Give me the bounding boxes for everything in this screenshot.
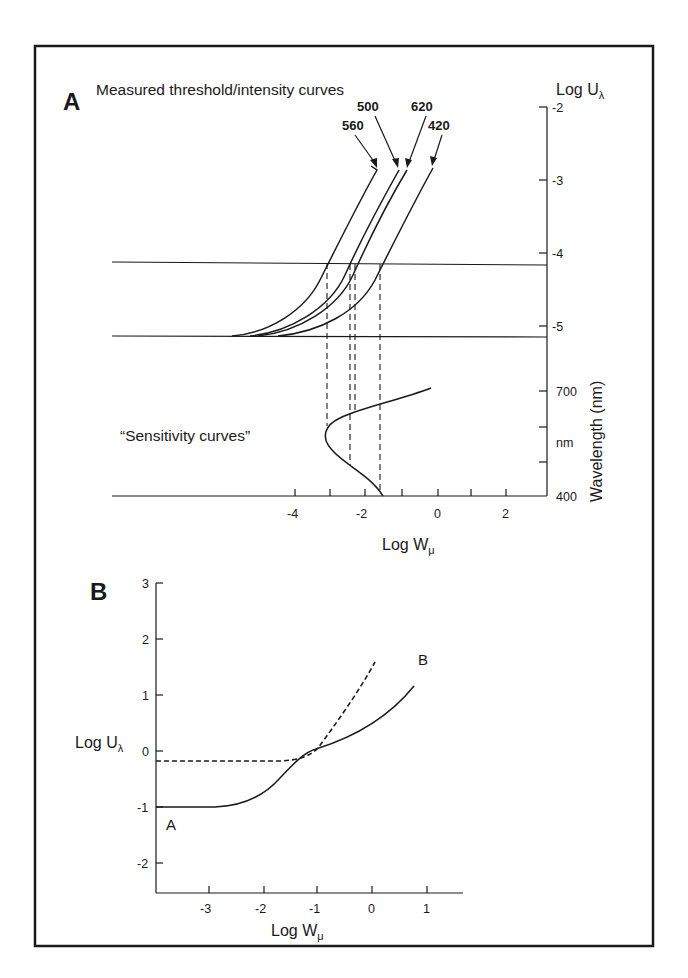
point-label-b: B bbox=[418, 651, 428, 668]
panel-a-x-ticks: -4 -2 0 2 bbox=[287, 489, 509, 521]
arrow-420 bbox=[434, 135, 442, 160]
tick-a-wl-700: 700 bbox=[556, 385, 577, 399]
log-w-text-b: Log W bbox=[271, 922, 318, 939]
tick-b-x-0: 0 bbox=[368, 902, 375, 916]
curve-labels: 500 620 560 420 bbox=[342, 99, 450, 168]
figure: A Measured threshold/intensity curves Lo… bbox=[0, 0, 688, 978]
panel-a-title: Measured threshold/intensity curves bbox=[96, 81, 344, 98]
curve-a-b-solid bbox=[156, 686, 414, 807]
panel-a-y-upper-label: Log Uλ bbox=[556, 81, 605, 101]
tick-a-x-2: 2 bbox=[502, 507, 509, 521]
tick-b-y-3: 3 bbox=[142, 577, 149, 591]
tick-b-y-1: 1 bbox=[142, 689, 149, 703]
panel-b-x-ticks: -3 -2 -1 0 1 bbox=[200, 886, 430, 916]
curve-560 bbox=[232, 166, 377, 336]
tick-b-y-neg1: -1 bbox=[137, 801, 148, 815]
tick-b-x-neg2: -2 bbox=[255, 902, 266, 916]
tick-a-y-neg4: -4 bbox=[552, 247, 563, 261]
panel-a-upper-ticks: -2 -3 -4 -5 bbox=[539, 101, 563, 334]
label-620: 620 bbox=[411, 99, 433, 114]
panel-b: B 3 2 1 0 -1 -2 Log Uλ -3 bbox=[75, 577, 463, 942]
tick-b-y-0: 0 bbox=[142, 745, 149, 759]
log-u-text: Log U bbox=[556, 81, 599, 98]
tick-a-wl-400: 400 bbox=[556, 490, 577, 504]
panel-b-letter: B bbox=[90, 578, 107, 605]
sensitivity-label: “Sensitivity curves” bbox=[120, 427, 250, 444]
curve-dashed bbox=[156, 662, 375, 761]
panel-b-y-ticks: 3 2 1 0 -1 -2 bbox=[137, 577, 163, 871]
panel-a-wavelength-ticks: 700 nm 400 bbox=[539, 385, 577, 504]
label-560: 560 bbox=[342, 118, 364, 133]
tick-b-x-1: 1 bbox=[423, 902, 430, 916]
tick-a-x-neg4: -4 bbox=[287, 507, 298, 521]
arrowhead-500 bbox=[392, 158, 399, 168]
arrow-560 bbox=[355, 135, 375, 163]
panel-b-x-label: Log Wμ bbox=[271, 922, 324, 942]
arrow-500 bbox=[375, 116, 396, 163]
arrowhead-420 bbox=[430, 156, 437, 166]
tick-a-x-0: 0 bbox=[434, 507, 441, 521]
arrowhead-620 bbox=[405, 158, 412, 168]
tick-a-wl-nm: nm bbox=[556, 436, 573, 450]
tick-b-y-2: 2 bbox=[142, 633, 149, 647]
panel-b-y-label: Log Uλ bbox=[75, 734, 124, 754]
label-500: 500 bbox=[357, 99, 379, 114]
panel-a-wavelength-label: Wavelength (nm) bbox=[588, 381, 605, 502]
tick-a-y-neg3: -3 bbox=[552, 174, 563, 188]
panel-a: A Measured threshold/intensity curves Lo… bbox=[63, 81, 605, 556]
panel-a-letter: A bbox=[63, 88, 80, 115]
curve-500 bbox=[250, 170, 399, 336]
tick-b-x-neg1: -1 bbox=[309, 902, 320, 916]
threshold-curves bbox=[232, 166, 433, 336]
tick-b-y-neg2: -2 bbox=[137, 857, 148, 871]
tick-a-x-neg2: -2 bbox=[356, 507, 367, 521]
log-w-text: Log W bbox=[382, 536, 429, 553]
lambda-subscript-b: λ bbox=[118, 742, 124, 754]
dashed-projections bbox=[327, 263, 380, 493]
label-420: 420 bbox=[428, 118, 450, 133]
sensitivity-curve bbox=[325, 388, 431, 496]
mu-subscript: μ bbox=[428, 544, 434, 556]
mu-subscript-b: μ bbox=[317, 930, 323, 942]
panel-a-x-label: Log Wμ bbox=[382, 536, 435, 556]
reference-line-lower bbox=[112, 336, 547, 337]
log-u-text-b: Log U bbox=[75, 734, 118, 751]
tick-a-y-neg2: -2 bbox=[552, 101, 563, 115]
tick-a-y-neg5: -5 bbox=[552, 320, 563, 334]
point-label-a: A bbox=[166, 816, 176, 833]
arrow-620 bbox=[409, 116, 426, 162]
lambda-subscript: λ bbox=[599, 89, 605, 101]
tick-b-x-neg3: -3 bbox=[200, 902, 211, 916]
